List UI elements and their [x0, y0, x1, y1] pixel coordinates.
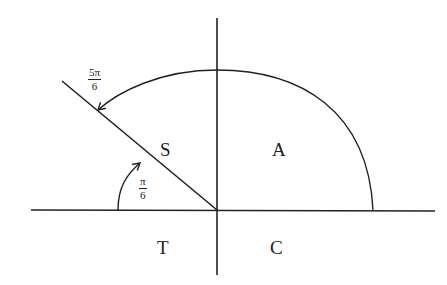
reference-angle-label: π 6 — [139, 176, 147, 201]
quadrant-label-a: A — [272, 140, 286, 159]
diagram-canvas — [0, 0, 447, 285]
x-axis — [31, 210, 435, 211]
quadrant-label-c: C — [270, 238, 283, 257]
quadrant-label-s: S — [160, 140, 171, 159]
quadrant-label-t: T — [157, 238, 169, 257]
reference-angle-arc — [118, 163, 140, 210]
reference-angle-denominator: 6 — [139, 189, 147, 201]
reference-angle-numerator: π — [139, 176, 147, 189]
large-angle-denominator: 6 — [88, 80, 101, 92]
large-angle-label: 5π 6 — [88, 67, 101, 92]
large-angle-numerator: 5π — [88, 67, 101, 80]
